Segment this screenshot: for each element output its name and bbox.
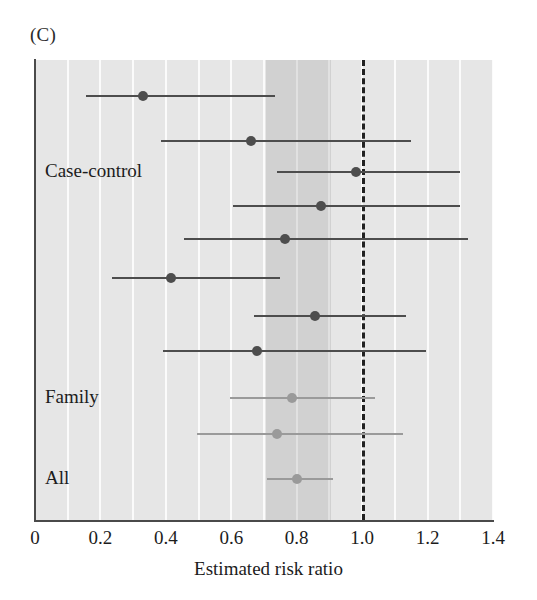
gridline xyxy=(99,60,101,520)
shaded-confidence-band xyxy=(266,60,331,520)
point-estimate-marker xyxy=(310,311,320,321)
x-tick-label: 1.0 xyxy=(350,527,374,549)
point-estimate-marker xyxy=(351,167,361,177)
gridline xyxy=(492,60,493,520)
x-tick-label: 1.2 xyxy=(416,527,440,549)
x-tick-label: 0.2 xyxy=(89,527,113,549)
null-reference-line xyxy=(362,60,365,520)
point-estimate-marker xyxy=(316,201,326,211)
y-axis-label-family: Family xyxy=(45,386,99,408)
gridline xyxy=(132,60,134,520)
study-row xyxy=(35,391,493,405)
point-estimate-marker xyxy=(272,429,282,439)
gridline xyxy=(459,60,461,520)
study-row xyxy=(35,472,493,486)
confidence-interval-line xyxy=(184,238,469,240)
gridline xyxy=(394,60,396,520)
gridline xyxy=(165,60,167,520)
confidence-interval-line xyxy=(86,95,276,97)
panel-label: (C) xyxy=(30,24,56,46)
confidence-interval-line xyxy=(254,315,406,317)
study-row xyxy=(35,344,493,358)
gridline xyxy=(427,60,429,520)
study-row xyxy=(35,232,493,246)
confidence-interval-line xyxy=(163,350,426,352)
point-estimate-marker xyxy=(292,474,302,484)
point-estimate-marker xyxy=(246,136,256,146)
x-tick-label: 0 xyxy=(30,527,40,549)
y-axis-label-all: All xyxy=(45,467,69,489)
point-estimate-marker xyxy=(166,273,176,283)
x-tick-label: 0.6 xyxy=(219,527,243,549)
point-estimate-marker xyxy=(138,91,148,101)
gridline xyxy=(198,60,200,520)
gridline xyxy=(67,60,69,520)
x-tick-label: 1.4 xyxy=(481,527,505,549)
point-estimate-marker xyxy=(252,346,262,356)
y-axis-line xyxy=(34,59,36,522)
confidence-interval-line xyxy=(277,171,460,173)
confidence-interval-line xyxy=(112,277,280,279)
confidence-interval-line xyxy=(197,433,403,435)
point-estimate-marker xyxy=(287,393,297,403)
study-row xyxy=(35,89,493,103)
confidence-interval-line xyxy=(233,205,460,207)
confidence-interval-line xyxy=(161,140,411,142)
y-axis-label-case-control: Case-control xyxy=(45,160,142,182)
x-tick-label: 0.4 xyxy=(154,527,178,549)
x-tick-label: 0.8 xyxy=(285,527,309,549)
study-row xyxy=(35,134,493,148)
plot-area xyxy=(35,60,493,520)
x-axis-line xyxy=(34,520,494,522)
point-estimate-marker xyxy=(280,234,290,244)
forest-plot-figure: (C) Case-controlFamilyAll 00.20.40.60.81… xyxy=(0,0,537,600)
study-row xyxy=(35,271,493,285)
study-row xyxy=(35,309,493,323)
study-row xyxy=(35,427,493,441)
study-row xyxy=(35,199,493,213)
confidence-interval-line xyxy=(230,397,376,399)
x-axis-title: Estimated risk ratio xyxy=(0,558,537,580)
gridline xyxy=(230,60,232,520)
